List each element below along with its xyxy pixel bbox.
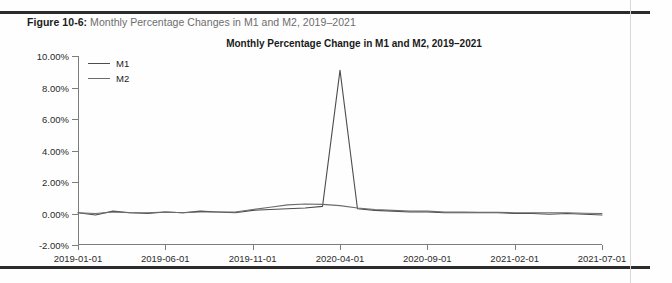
page-rule-top [0,11,650,14]
figure-caption-number: Figure 10-6: [27,16,87,28]
y-axis-tick-label: 0.00% [42,208,69,219]
chart-series-group [78,56,602,245]
x-axis-tick [427,245,428,250]
chart-plot-area: 10.00%8.00%6.00%4.00%2.00%0.00%-2.00% 20… [78,56,602,245]
x-axis-tick [165,245,166,250]
x-axis-tick-label: 2021-02-01 [490,253,539,264]
x-axis-tick-label: 2020-09-01 [403,253,452,264]
y-axis-tick-label: 6.00% [42,114,69,125]
legend-item-m1[interactable]: M1 [88,59,129,69]
y-axis-tick-label: -2.00% [39,240,69,251]
y-axis-tick-label: 2.00% [42,177,69,188]
legend-item-label: M1 [116,59,129,69]
chart-title: Monthly Percentage Change in M1 and M2, … [0,38,672,49]
x-axis-tick [515,245,516,250]
x-axis-tick-label: 2019-11-01 [229,253,277,264]
page-rule-bottom [0,266,650,269]
figure-caption: Figure 10-6: Monthly Percentage Changes … [27,16,356,28]
y-axis-tick-label: 10.00% [37,51,69,62]
x-axis-tick [78,245,79,250]
legend-swatch-m1-icon [88,63,110,64]
x-axis-tick-label: 2019-01-01 [54,253,103,264]
legend-swatch-m2-icon [88,78,110,79]
x-axis-tick [602,245,603,250]
legend-item-label: M2 [116,74,129,84]
x-axis-tick [253,245,254,250]
x-axis-tick-label: 2019-06-01 [141,253,190,264]
x-axis-tick-label: 2021-07-01 [578,253,627,264]
page-canvas: Figure 10-6: Monthly Percentage Changes … [0,0,672,283]
figure-caption-text: Monthly Percentage Changes in M1 and M2,… [87,16,356,28]
y-axis-tick-label: 8.00% [42,82,69,93]
chart-legend: M1M2 [88,59,129,83]
legend-item-m2[interactable]: M2 [88,74,129,84]
chart-line-m2 [78,204,602,213]
x-axis-tick [340,245,341,250]
chart-line-m1 [78,70,602,215]
x-axis-tick-label: 2020-04-01 [316,253,365,264]
y-axis-tick-label: 4.00% [42,145,69,156]
